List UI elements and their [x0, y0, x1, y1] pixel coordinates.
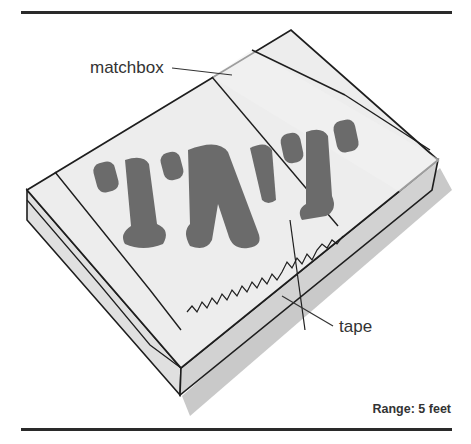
- bottom-divider: [21, 428, 452, 431]
- range-text: Range: 5 feet: [373, 402, 452, 416]
- matchbox-illustration: [0, 0, 471, 444]
- tape-label: tape: [339, 317, 372, 337]
- matchbox-label: matchbox: [90, 58, 164, 78]
